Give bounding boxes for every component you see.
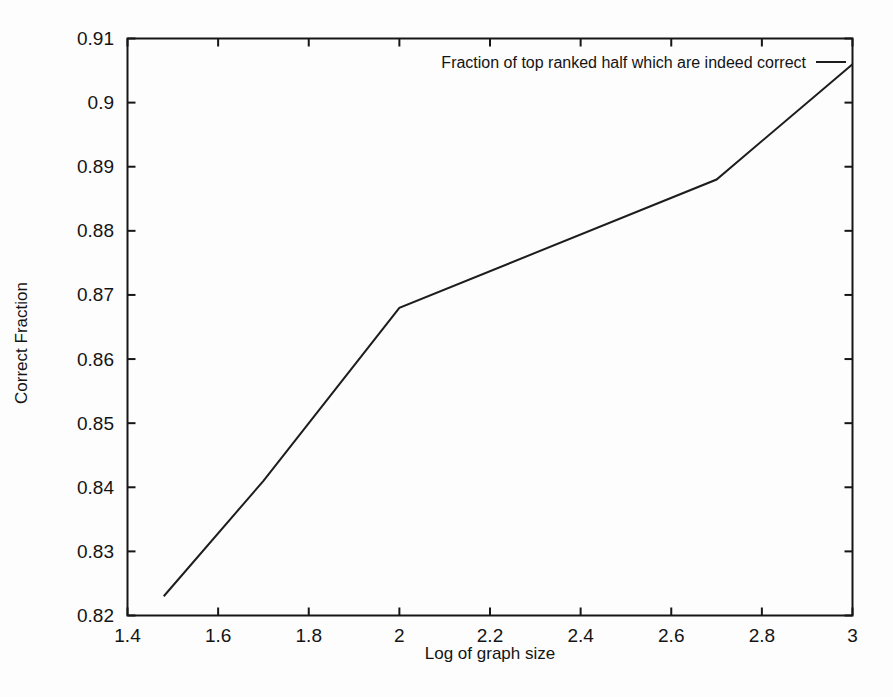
y-tick-label: 0.83 xyxy=(77,541,114,562)
x-tick-label: 1.8 xyxy=(296,625,322,646)
y-tick-label: 0.87 xyxy=(77,284,114,305)
plot-svg: 1.41.61.822.22.42.62.830.820.830.840.850… xyxy=(0,0,893,697)
x-tick-label: 2.8 xyxy=(749,625,775,646)
y-tick-label: 0.9 xyxy=(88,92,114,113)
y-tick-label: 0.84 xyxy=(77,477,114,498)
x-tick-label: 3 xyxy=(847,625,858,646)
x-axis-label: Log of graph size xyxy=(425,644,555,663)
line-chart-figure: 1.41.61.822.22.42.62.830.820.830.840.850… xyxy=(0,0,893,697)
y-tick-label: 0.85 xyxy=(77,413,114,434)
x-tick-label: 2.4 xyxy=(567,625,594,646)
x-tick-label: 1.6 xyxy=(205,625,231,646)
x-tick-label: 2 xyxy=(394,625,405,646)
x-tick-label: 2.6 xyxy=(658,625,684,646)
legend-label: Fraction of top ranked half which are in… xyxy=(441,54,806,71)
data-line xyxy=(164,64,853,596)
y-tick-label: 0.88 xyxy=(77,220,114,241)
x-tick-label: 1.4 xyxy=(114,625,141,646)
y-tick-label: 0.89 xyxy=(77,156,114,177)
y-tick-label: 0.86 xyxy=(77,349,114,370)
y-tick-label: 0.82 xyxy=(77,605,114,626)
y-tick-label: 0.91 xyxy=(77,28,114,49)
y-axis-label: Correct Fraction xyxy=(12,282,31,404)
plot-border xyxy=(128,39,853,616)
x-tick-label: 2.2 xyxy=(477,625,503,646)
